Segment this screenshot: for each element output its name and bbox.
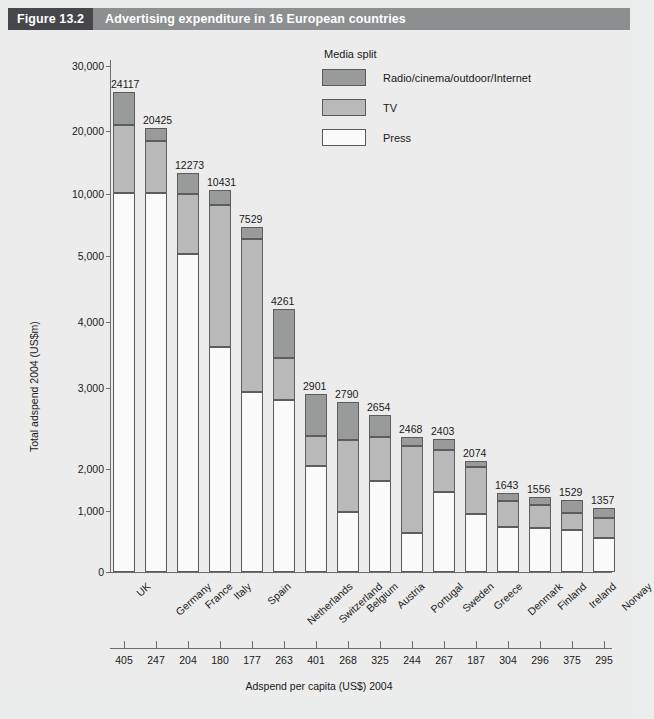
per-capita-value: 325 (371, 654, 389, 666)
bar-segment-radio (593, 508, 615, 518)
y-axis-line (110, 60, 111, 573)
per-capita-tick (508, 641, 509, 648)
bar-value-label: 1556 (527, 483, 550, 495)
per-capita-tick (444, 641, 445, 648)
legend-item-radio: Radio/cinema/outdoor/Internet (322, 69, 531, 86)
per-capita-value: 304 (499, 654, 517, 666)
bar-belgium[interactable] (337, 402, 359, 572)
legend-label-press: Press (383, 132, 411, 144)
bar-value-label: 2074 (463, 447, 486, 459)
y-tick-label: 5,000 (4, 250, 104, 262)
per-capita-axis-line (110, 648, 612, 649)
bar-austria[interactable] (369, 415, 391, 572)
bar-france[interactable] (177, 173, 199, 572)
bar-finland[interactable] (529, 497, 551, 572)
bar-value-label: 1529 (559, 486, 582, 498)
y-tick-mark (106, 572, 111, 573)
per-capita-tick (188, 641, 189, 648)
legend-swatch-press (322, 129, 366, 146)
per-capita-value: 204 (179, 654, 197, 666)
legend-swatch-tv (322, 99, 366, 116)
bar-spain[interactable] (241, 227, 263, 572)
bar-segment-tv (113, 125, 135, 193)
y-tick-label: 2,000 (4, 463, 104, 475)
bar-ireland[interactable] (561, 500, 583, 572)
legend-item-tv: TV (322, 99, 531, 116)
per-capita-value: 267 (435, 654, 453, 666)
bar-germany[interactable] (145, 128, 167, 572)
bar-italy[interactable] (209, 190, 231, 572)
legend-label-radio: Radio/cinema/outdoor/Internet (383, 72, 531, 84)
bar-segment-tv (145, 141, 167, 193)
per-capita-value: 296 (531, 654, 549, 666)
bar-segment-radio (113, 92, 135, 125)
bar-segment-tv (497, 501, 519, 527)
x-axis-line (110, 572, 612, 573)
y-tick-mark (106, 256, 111, 257)
bar-value-label: 10431 (207, 176, 236, 188)
bar-segment-press (209, 347, 231, 572)
y-tick-label: 30,000 (4, 60, 104, 72)
per-capita-tick (252, 641, 253, 648)
bar-uk[interactable] (113, 92, 135, 572)
legend-items: Radio/cinema/outdoor/InternetTVPress (322, 69, 531, 146)
per-capita-value: 177 (243, 654, 261, 666)
bar-segment-press (593, 538, 615, 572)
bar-segment-tv (593, 518, 615, 538)
y-tick-mark (106, 322, 111, 323)
per-capita-tick (316, 641, 317, 648)
bar-value-label: 2654 (367, 401, 390, 413)
bar-segment-radio (177, 173, 199, 194)
per-capita-value: 295 (595, 654, 613, 666)
y-tick-mark (106, 388, 111, 389)
bar-segment-press (497, 527, 519, 572)
bar-segment-radio (497, 493, 519, 501)
bar-portugal[interactable] (401, 437, 423, 572)
legend: Media split Radio/cinema/outdoor/Interne… (322, 48, 531, 159)
bar-segment-press (433, 492, 455, 572)
y-tick-label: 1,000 (4, 505, 104, 517)
bar-segment-press (401, 533, 423, 572)
bar-segment-radio (369, 415, 391, 437)
per-capita-value: 375 (563, 654, 581, 666)
bar-segment-press (465, 514, 487, 572)
bar-value-label: 2403 (431, 425, 454, 437)
per-capita-tick (412, 641, 413, 648)
bar-segment-radio (305, 394, 327, 436)
y-axis-tick-labels: 30,00020,00010,0005,0004,0003,0002,0001,… (0, 0, 104, 719)
legend-swatch-radio (322, 69, 366, 86)
per-capita-tick (220, 641, 221, 648)
per-capita-tick (572, 641, 573, 648)
per-capita-value: 187 (467, 654, 485, 666)
bar-denmark[interactable] (497, 493, 519, 572)
bar-value-label: 20425 (143, 114, 172, 126)
bar-netherlands[interactable] (273, 309, 295, 572)
bar-segment-tv (273, 358, 295, 400)
bar-segment-radio (145, 128, 167, 141)
bar-segment-radio (433, 439, 455, 450)
bar-segment-press (273, 400, 295, 572)
y-tick-mark (106, 66, 111, 67)
bar-segment-press (241, 392, 263, 572)
bar-greece[interactable] (465, 461, 487, 572)
bar-value-label: 2468 (399, 423, 422, 435)
y-tick-label: 3,000 (4, 382, 104, 394)
bar-segment-tv (337, 440, 359, 512)
figure-title: Advertising expenditure in 16 European c… (93, 8, 406, 30)
bar-segment-tv (177, 194, 199, 254)
bar-switzerland[interactable] (305, 394, 327, 572)
y-tick-mark (106, 469, 111, 470)
bar-value-label: 4261 (271, 295, 294, 307)
bar-segment-press (561, 530, 583, 572)
bar-segment-press (113, 193, 135, 572)
per-capita-tick (284, 641, 285, 648)
bar-norway[interactable] (593, 508, 615, 572)
bar-segment-press (305, 466, 327, 572)
bar-value-label: 2790 (335, 388, 358, 400)
bar-segment-tv (209, 205, 231, 347)
bar-segment-press (337, 512, 359, 572)
bar-sweden[interactable] (433, 439, 455, 572)
bar-segment-tv (433, 450, 455, 492)
per-capita-tick (380, 641, 381, 648)
per-capita-tick (540, 641, 541, 648)
